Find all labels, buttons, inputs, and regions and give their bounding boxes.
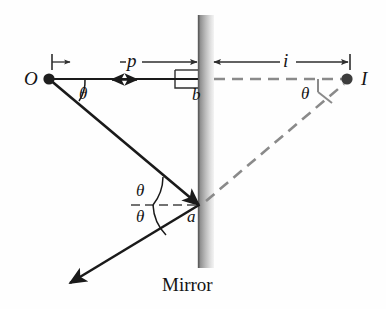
label-mirror-foot-point: b <box>192 86 201 103</box>
image-point-dot <box>341 73 352 84</box>
angle-arc-incidence <box>153 177 163 205</box>
incident-ray-oa <box>49 79 199 205</box>
reflected-ray <box>70 205 199 283</box>
label-object-point: O <box>24 69 38 88</box>
diagram-canvas <box>0 0 386 309</box>
label-image-point: I <box>361 69 367 88</box>
label-angle-at-image: θ <box>301 85 309 102</box>
label-angle-incidence: θ <box>136 182 144 199</box>
mirror-caption: Mirror <box>162 275 213 294</box>
label-image-distance: i <box>283 51 288 70</box>
label-reflection-point: a <box>187 208 196 225</box>
virtual-ray-ai <box>206 84 344 201</box>
label-angle-reflection: θ <box>136 208 144 225</box>
label-object-distance: p <box>127 51 137 70</box>
mirror-surface <box>198 15 214 268</box>
angle-arc-at-image-2 <box>318 92 332 103</box>
label-angle-at-object: θ <box>79 85 87 102</box>
mirror-reflection-diagram: O I b a p i θ θ θ θ Mirror <box>0 0 386 309</box>
object-point-dot <box>43 73 54 84</box>
